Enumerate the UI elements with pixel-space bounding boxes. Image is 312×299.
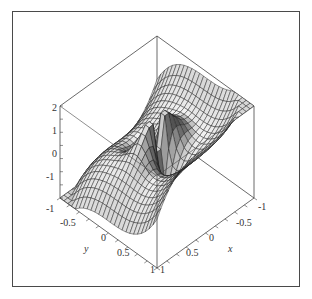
x-tick-neg0.5: -0.5 xyxy=(236,217,252,228)
z-tick-1: 1 xyxy=(52,125,57,136)
x-axis-label: x xyxy=(227,243,233,254)
y-tick-0.5: 0.5 xyxy=(117,247,130,258)
x-tick-1: 1 xyxy=(160,264,165,275)
y-tick-neg0.5: -0.5 xyxy=(60,217,76,228)
surface-plot-3d[interactable]: 2 1 0 -1 -1 -0.5 0 0.5 1 y -1 -0.5 0 0.5… xyxy=(0,0,312,299)
z-axis-tick-labels: 2 1 0 -1 xyxy=(46,102,57,182)
y-tick-neg1: -1 xyxy=(46,203,54,214)
x-tick-0.5: 0.5 xyxy=(186,247,199,258)
x-axis-tick-labels: -1 -0.5 0 0.5 1 x xyxy=(160,201,266,275)
z-tick-0: 0 xyxy=(52,148,57,159)
y-tick-0: 0 xyxy=(101,232,106,243)
y-tick-1: 1 xyxy=(150,264,155,275)
x-tick-neg1: -1 xyxy=(258,201,266,212)
z-tick-neg1: -1 xyxy=(46,171,54,182)
x-tick-0: 0 xyxy=(209,232,214,243)
y-axis-label: y xyxy=(83,243,89,254)
z-tick-2: 2 xyxy=(52,102,57,113)
